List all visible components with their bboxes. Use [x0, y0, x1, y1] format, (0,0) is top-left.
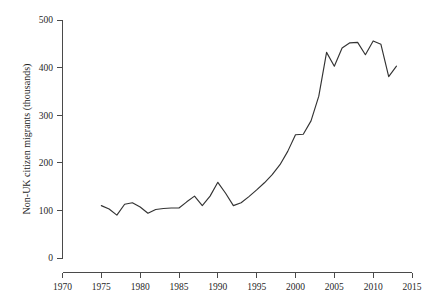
y-tick-label: 500 — [39, 15, 54, 25]
y-tick-label: 300 — [39, 111, 54, 121]
chart-figure: 0100200300400500 19701975198019851990199… — [0, 0, 429, 307]
x-tick-label: 1970 — [53, 282, 72, 292]
x-tick-label: 2005 — [325, 282, 344, 292]
x-tick-label-group: 1970197519801985199019952000200520102015 — [53, 282, 422, 292]
x-tick-label: 1980 — [131, 282, 150, 292]
x-tick-label: 1990 — [208, 282, 227, 292]
x-tick-label: 1995 — [247, 282, 266, 292]
x-tick-label: 2010 — [364, 282, 383, 292]
y-axis-title: Non-UK citizen migrants (thousands) — [21, 64, 33, 215]
y-tick-label: 0 — [48, 253, 53, 263]
x-tick-label: 2015 — [403, 282, 422, 292]
x-tick-group — [63, 273, 413, 279]
y-tick-label: 100 — [39, 206, 54, 216]
line-chart: 0100200300400500 19701975198019851990199… — [0, 0, 429, 307]
y-tick-label: 400 — [39, 63, 54, 73]
y-tick-group — [57, 20, 63, 258]
y-tick-label: 200 — [39, 158, 54, 168]
y-tick-label-group: 0100200300400500 — [39, 15, 54, 263]
x-tick-label: 1985 — [170, 282, 189, 292]
x-tick-label: 1975 — [92, 282, 111, 292]
x-tick-label: 2000 — [286, 282, 305, 292]
data-series-line — [101, 41, 396, 215]
